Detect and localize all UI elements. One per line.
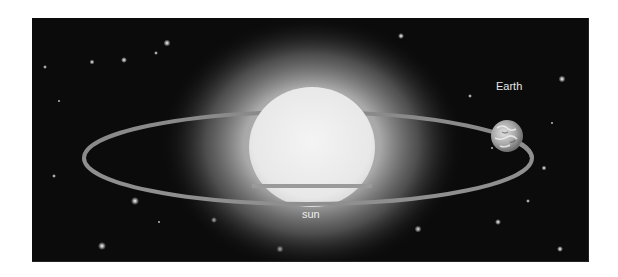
star-icon <box>131 197 139 205</box>
star-icon <box>398 33 404 39</box>
star-icon <box>52 174 56 178</box>
star-icon <box>154 51 158 55</box>
star-icon <box>121 57 127 63</box>
star-icon <box>98 242 106 250</box>
sun-label: sun <box>302 209 320 220</box>
star-icon <box>43 65 47 69</box>
star-icon <box>551 122 554 125</box>
star-icon <box>491 147 494 150</box>
star-icon <box>542 166 547 171</box>
star-icon <box>164 40 171 47</box>
star-icon <box>468 94 472 98</box>
star-icon <box>158 221 161 224</box>
star-icon <box>58 100 61 103</box>
earth-label: Earth <box>496 81 522 92</box>
star-icon <box>557 246 563 252</box>
orbit-path-front-earth <box>520 144 532 158</box>
star-icon <box>559 76 566 83</box>
diagram-canvas <box>32 18 588 261</box>
star-icon <box>90 60 95 65</box>
star-icon <box>495 219 501 225</box>
star-icon <box>526 199 530 203</box>
earth-icon <box>491 120 523 152</box>
sun-icon <box>249 87 375 207</box>
space-diagram: Earth sun <box>32 18 589 262</box>
